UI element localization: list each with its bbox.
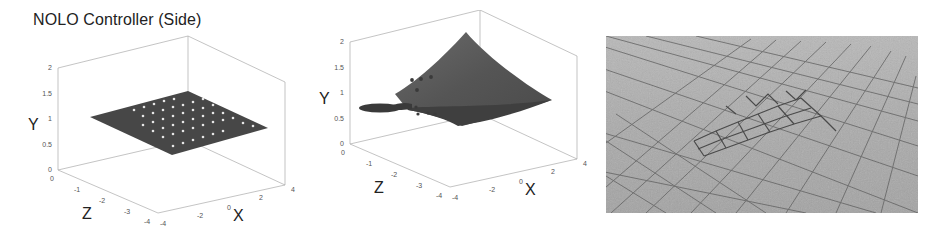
surface-lobe-neck: [390, 103, 412, 110]
x-axis-label: X: [525, 181, 536, 198]
z-axis-label: Z: [82, 205, 92, 222]
z-axis-ticks: 0 -1 -2 -3 -4: [341, 149, 442, 199]
svg-text:2: 2: [551, 168, 555, 175]
svg-text:-2: -2: [391, 171, 397, 178]
y-axis-ticks: 2 1.5 1 0.5 0: [42, 64, 52, 173]
svg-text:-4: -4: [144, 218, 150, 225]
svg-text:1.5: 1.5: [334, 64, 344, 71]
svg-text:2: 2: [259, 194, 263, 201]
svg-text:-2: -2: [489, 186, 495, 193]
y-axis-label: Y: [28, 116, 39, 133]
svg-text:-4: -4: [160, 220, 166, 227]
svg-text:1: 1: [340, 89, 344, 96]
scene-render: [606, 36, 918, 213]
x-axis-ticks: -4 -2 0 2 4: [160, 186, 295, 227]
svg-text:0: 0: [48, 166, 52, 173]
plot-deformed-surface: 2 1.5 1 0.5 0 0 -1 -2 -3 -4 -4 -2 0 2 4 …: [290, 10, 600, 241]
svg-text:0: 0: [341, 149, 345, 156]
plot-deformed-surface-svg: 2 1.5 1 0.5 0 0 -1 -2 -3 -4 -4 -2 0 2 4 …: [290, 10, 600, 241]
svg-text:0: 0: [519, 178, 523, 185]
svg-text:0: 0: [340, 140, 344, 147]
x-axis-label: X: [233, 207, 244, 224]
svg-text:-2: -2: [197, 212, 203, 219]
svg-text:2: 2: [340, 38, 344, 45]
y-axis-label: Y: [319, 90, 330, 107]
flat-surface: [90, 91, 268, 155]
svg-text:-4: -4: [436, 192, 442, 199]
svg-text:0.5: 0.5: [334, 115, 344, 122]
svg-text:4: 4: [583, 160, 587, 167]
svg-text:0: 0: [227, 204, 231, 211]
svg-text:-4: -4: [452, 194, 458, 201]
svg-text:-2: -2: [99, 197, 105, 204]
svg-text:-3: -3: [124, 208, 130, 215]
svg-text:-1: -1: [74, 186, 80, 193]
svg-text:0: 0: [50, 175, 54, 182]
z-axis-label: Z: [374, 179, 384, 196]
svg-text:0.5: 0.5: [42, 141, 52, 148]
x-axis-ticks: -4 -2 0 2 4: [452, 160, 587, 201]
plot-flat-plane-svg: 2 1.5 1 0.5 0 0 -1 -2 -3 -4 -4 -2 0 2 4 …: [0, 0, 300, 241]
plot-flat-plane: 2 1.5 1 0.5 0 0 -1 -2 -3 -4 -4 -2 0 2 4 …: [0, 0, 300, 241]
svg-text:1: 1: [48, 115, 52, 122]
svg-text:1.5: 1.5: [42, 90, 52, 97]
z-axis-ticks: 0 -1 -2 -3 -4: [50, 175, 150, 225]
svg-text:-1: -1: [366, 160, 372, 167]
y-axis-ticks: 2 1.5 1 0.5 0: [334, 38, 344, 147]
svg-text:-3: -3: [416, 182, 422, 189]
svg-text:2: 2: [48, 64, 52, 71]
scene-render-svg: [606, 36, 918, 213]
